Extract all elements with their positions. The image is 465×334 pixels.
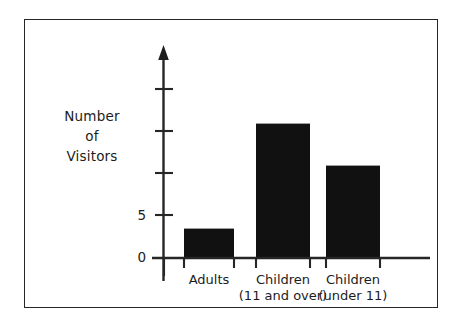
bar-chart-figure: Number of Visitors 5 0 Adults Children (…: [0, 0, 465, 334]
y-tick-label-0: 0: [122, 250, 146, 264]
y-axis-title-line-3: Visitors: [38, 146, 146, 166]
y-axis-title-line-2: of: [38, 126, 146, 146]
y-axis-title-line-1: Number: [38, 106, 146, 126]
x-category-label-children-under-11-line-2: (under 11): [306, 288, 400, 304]
x-category-label-children-under-11: Children (under 11): [306, 272, 400, 304]
x-category-label-children-under-11-line-1: Children: [306, 272, 400, 288]
y-axis-title: Number of Visitors: [38, 106, 146, 166]
y-tick-label-5: 5: [122, 208, 146, 222]
